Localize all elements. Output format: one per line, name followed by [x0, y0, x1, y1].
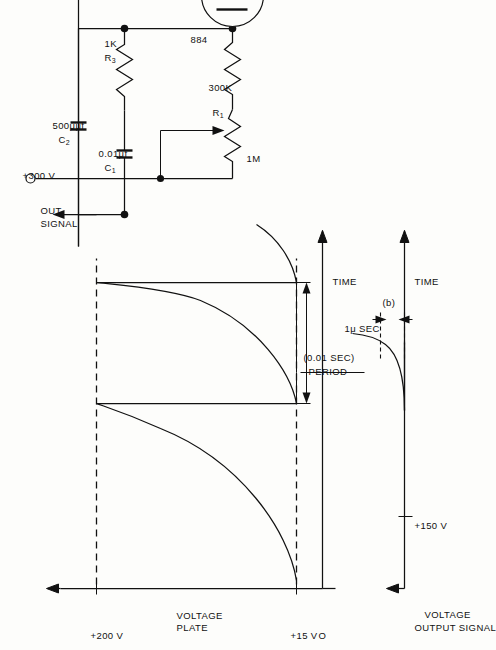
c1-ref-text: C — [104, 161, 111, 172]
caption-b: (b) — [382, 297, 395, 308]
output-signal-tick-150: +150 V — [414, 520, 447, 531]
output-signal-axis-label-line1: OUTPUT SIGNAL — [414, 622, 496, 633]
signal-out-label-line1: SIGNAL — [40, 218, 77, 229]
output-signal-axes — [386, 230, 412, 593]
c1-sub-text: 1 — [111, 166, 115, 173]
c2-ref-label: C2 — [58, 134, 70, 146]
signal-out-label-line2: OUT — [40, 205, 61, 216]
r3-ref-label: R3 — [104, 52, 116, 64]
tube-884-envelope — [201, 0, 263, 26]
c1-value-label: 0.01μf — [98, 148, 127, 159]
output-signal-time-axis-label: TIME — [414, 276, 438, 287]
terminal-label-plus300: +300 V — [22, 170, 55, 181]
c1-ref-label: C1 — [104, 162, 116, 174]
r3-ref-text: R — [104, 51, 111, 62]
pot-value-label: 1M — [246, 153, 260, 164]
r1-sub-text: 1 — [219, 111, 223, 118]
period-value-label: (0.01 SEC) — [303, 352, 354, 363]
r3-value-label: 1K — [104, 38, 116, 49]
r3-sub-text: 3 — [111, 56, 115, 63]
plate-voltage-trace — [96, 224, 296, 580]
tube-884-label: 884 — [190, 34, 207, 45]
micro-second-annotation: 1μ SEC — [344, 323, 379, 334]
plate-voltage-axes — [46, 230, 335, 593]
c2-value-label: 500μμf — [52, 120, 84, 131]
plate-voltage-axis-label-line1: PLATE — [176, 622, 207, 633]
c2-sub-text: 2 — [65, 138, 69, 145]
plate-voltage-tick-200: +200 V — [90, 630, 123, 641]
plate-voltage-tick-15: +15 V — [290, 630, 317, 641]
plate-voltage-tick-zero: O — [318, 630, 326, 641]
period-dimension — [296, 282, 364, 403]
r1-ref-label: R1 — [212, 107, 224, 119]
plate-voltage-axis-label-line2: VOLTAGE — [176, 610, 222, 621]
r1-ref-text: R — [212, 106, 219, 117]
r1-value-label: 300K — [208, 82, 232, 93]
c2-ref-text: C — [58, 133, 65, 144]
period-label: PERIOD — [308, 366, 347, 377]
output-signal-axis-label-line2: VOLTAGE — [424, 609, 470, 620]
plate-voltage-level-lines — [96, 258, 296, 584]
plate-voltage-time-axis-label: TIME — [332, 276, 356, 287]
